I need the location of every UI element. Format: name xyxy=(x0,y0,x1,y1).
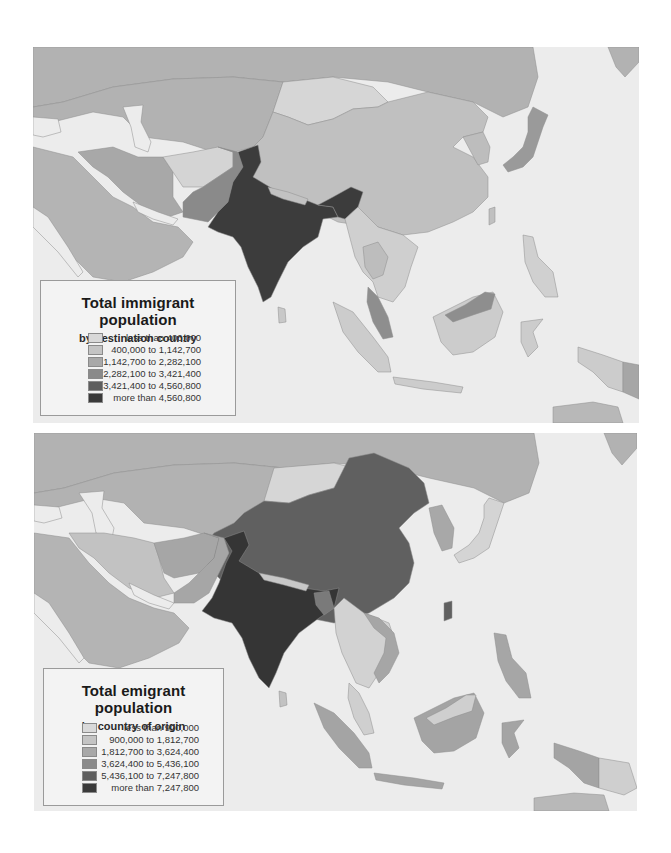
legend-label: 400,000 to 1,142,700 xyxy=(111,345,201,355)
emigrant-legend: Total emigrant population by country of … xyxy=(43,668,224,806)
legend-swatch xyxy=(82,783,97,793)
legend-row: more than 7,247,800 xyxy=(44,783,223,795)
emigrant-legend-rows: less than 900,000 900,000 to 1,812,700 1… xyxy=(44,723,223,795)
legend-swatch xyxy=(88,381,103,391)
legend-label: more than 4,560,800 xyxy=(113,393,201,403)
legend-label: 3,421,400 to 4,560,800 xyxy=(103,381,201,391)
legend-swatch xyxy=(82,771,97,781)
legend-swatch xyxy=(82,747,97,757)
legend-swatch xyxy=(82,723,97,733)
legend-label: 3,624,400 to 5,436,100 xyxy=(101,759,199,769)
region-sri-lanka xyxy=(279,691,287,707)
legend-swatch xyxy=(88,345,103,355)
immigrant-map: Total immigrant population by destinatio… xyxy=(33,47,639,423)
legend-swatch xyxy=(82,759,97,769)
legend-swatch xyxy=(82,735,97,745)
emigrant-legend-title: Total emigrant population xyxy=(44,682,223,716)
legend-label: 1,142,700 to 2,282,100 xyxy=(103,357,201,367)
legend-label: less than 400,000 xyxy=(126,333,201,343)
legend-label: 900,000 to 1,812,700 xyxy=(109,735,199,745)
legend-label: 2,282,100 to 3,421,400 xyxy=(103,369,201,379)
legend-swatch xyxy=(88,393,103,403)
legend-swatch xyxy=(88,333,103,343)
legend-swatch xyxy=(88,369,103,379)
legend-row: more than 4,560,800 xyxy=(41,393,235,405)
legend-swatch xyxy=(88,357,103,367)
immigrant-legend-title: Total immigrant population xyxy=(41,294,235,328)
region-sri-lanka xyxy=(278,307,286,323)
immigrant-legend: Total immigrant population by destinatio… xyxy=(40,280,236,416)
legend-label: 5,436,100 to 7,247,800 xyxy=(101,771,199,781)
region-taiwan xyxy=(489,207,495,225)
legend-label: less than 900,000 xyxy=(124,723,199,733)
legend-label: 1,812,700 to 3,624,400 xyxy=(101,747,199,757)
emigrant-map: Total emigrant population by country of … xyxy=(34,433,637,811)
immigrant-legend-rows: less than 400,000 400,000 to 1,142,700 1… xyxy=(41,333,235,405)
region-taiwan xyxy=(444,601,452,621)
legend-label: more than 7,247,800 xyxy=(111,783,199,793)
